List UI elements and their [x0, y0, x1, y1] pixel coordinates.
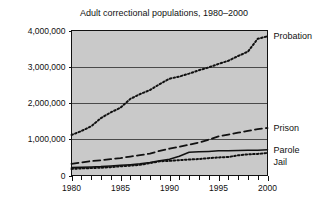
series-label-probation: Probation [274, 31, 313, 41]
y-axis-tick-label: 4,000,000 [28, 26, 66, 36]
x-axis-tick-label: 2000 [258, 183, 277, 193]
series-label-jail: Jail [274, 157, 288, 167]
y-axis-tick-label: 1,000,000 [28, 134, 66, 144]
x-axis-tick-label: 1985 [111, 183, 130, 193]
series-label-prison: Prison [274, 123, 300, 133]
series-label-parole: Parole [274, 145, 300, 155]
y-axis-tick-label: 3,000,000 [28, 62, 66, 72]
x-axis-tick-label: 1980 [62, 183, 81, 193]
x-axis-tick-label: 1990 [160, 183, 179, 193]
y-axis-tick-label: 0 [61, 171, 66, 181]
x-axis-tick-label: 1995 [209, 183, 228, 193]
chart-title: Adult correctional populations, 1980–200… [80, 8, 248, 18]
y-axis-tick-label: 2,000,000 [28, 98, 66, 108]
adult-correctional-populations-chart: Adult correctional populations, 1980–200… [0, 0, 328, 206]
